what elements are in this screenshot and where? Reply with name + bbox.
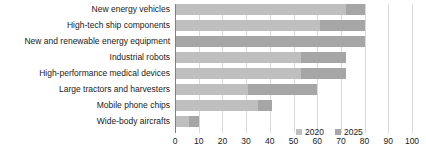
plot-area	[175, 4, 412, 133]
x-tick-40: 40	[258, 136, 282, 146]
legend: 2020 2025	[296, 127, 363, 137]
bar-segment-2020[interactable]	[175, 20, 320, 31]
x-tick-10: 10	[187, 136, 211, 146]
x-tick-60: 60	[305, 136, 329, 146]
bar-segment-2020[interactable]	[175, 4, 346, 15]
legend-label-2025: 2025	[344, 127, 363, 137]
bar-segment-2020[interactable]	[175, 52, 301, 63]
bar-row[interactable]	[175, 52, 346, 63]
bar-row[interactable]	[175, 84, 317, 95]
gridline-90	[388, 4, 389, 133]
gridline-80	[365, 4, 366, 133]
bar-segment-2025[interactable]	[189, 116, 198, 127]
bar-segment-2025[interactable]	[301, 68, 346, 79]
bar-row[interactable]	[175, 68, 346, 79]
category-label: Industrial robots	[0, 52, 170, 63]
legend-label-2020: 2020	[305, 127, 324, 137]
x-tick-30: 30	[234, 136, 258, 146]
x-tick-50: 50	[282, 136, 306, 146]
category-label: New energy vehicles	[0, 4, 170, 15]
bar-row[interactable]	[175, 100, 272, 111]
legend-item-2025[interactable]: 2025	[335, 127, 363, 137]
y-axis-line	[175, 4, 176, 133]
legend-swatch-2025	[335, 129, 341, 135]
bar-segment-2025[interactable]	[248, 84, 317, 95]
bar-row[interactable]	[175, 4, 365, 15]
bar-row[interactable]	[175, 36, 365, 47]
bar-segment-2020[interactable]	[175, 84, 248, 95]
bar-segment-2025[interactable]	[175, 36, 365, 47]
bar-segment-2025[interactable]	[258, 100, 272, 111]
legend-item-2020[interactable]: 2020	[296, 127, 324, 137]
x-tick-80: 80	[353, 136, 377, 146]
bar-segment-2025[interactable]	[301, 52, 346, 63]
bar-segment-2020[interactable]	[175, 116, 189, 127]
bar-row[interactable]	[175, 116, 199, 127]
category-label: High-tech ship components	[0, 20, 170, 31]
bar-row[interactable]	[175, 20, 365, 31]
bar-segment-2025[interactable]	[320, 20, 365, 31]
x-tick-70: 70	[329, 136, 353, 146]
category-label: Mobile phone chips	[0, 100, 170, 111]
x-tick-0: 0	[163, 136, 187, 146]
category-label: Large tractors and harvesters	[0, 84, 170, 95]
x-tick-90: 90	[376, 136, 400, 146]
x-tick-100: 100	[400, 136, 424, 146]
stacked-bar-chart: New energy vehiclesHigh-tech ship compon…	[0, 0, 426, 162]
category-label: High-performance medical devices	[0, 68, 170, 79]
category-label: New and renewable energy equipment	[0, 36, 170, 47]
x-tick-20: 20	[210, 136, 234, 146]
bar-segment-2020[interactable]	[175, 100, 258, 111]
bar-segment-2020[interactable]	[175, 68, 301, 79]
gridline-100	[412, 4, 413, 133]
category-label: Wide-body aircrafts	[0, 116, 170, 127]
legend-swatch-2020	[296, 129, 302, 135]
bar-segment-2025[interactable]	[346, 4, 365, 15]
